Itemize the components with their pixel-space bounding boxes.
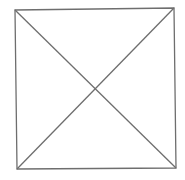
diagram-canvas [0,0,185,180]
diagonal-top-right-to-bottom-left [17,8,174,169]
